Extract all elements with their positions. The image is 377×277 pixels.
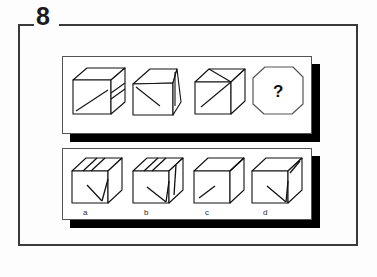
question-cube-2	[130, 62, 190, 124]
frame-top-edge-right	[59, 24, 358, 26]
question-cube-1	[69, 62, 129, 124]
frame-left-edge	[18, 24, 20, 246]
question-cube-3	[191, 62, 251, 124]
answer-label-a: a	[83, 208, 87, 217]
answer-option-a[interactable]: a	[69, 153, 129, 219]
question-number: 8	[36, 4, 50, 29]
answer-options-panel: a b	[62, 148, 312, 220]
answer-label-d: d	[263, 208, 267, 217]
frame-bottom-edge	[18, 244, 358, 246]
answer-label-b: b	[144, 208, 148, 217]
question-page: 8	[0, 0, 377, 277]
question-sequence-panel: ?	[62, 56, 312, 134]
frame-top-edge-left	[18, 24, 34, 26]
question-mark: ?	[273, 82, 283, 102]
answer-option-b[interactable]: b	[130, 153, 190, 219]
question-unknown-tile: ?	[249, 62, 307, 124]
answer-label-c: c	[205, 208, 209, 217]
answer-option-d[interactable]: d	[249, 153, 309, 219]
frame-right-edge	[356, 24, 358, 246]
answer-option-c[interactable]: c	[191, 153, 251, 219]
